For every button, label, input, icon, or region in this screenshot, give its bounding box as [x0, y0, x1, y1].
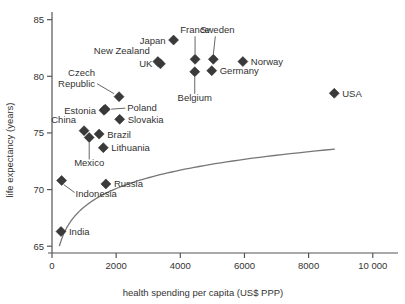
point-label: Czech [68, 67, 95, 78]
leader-line [97, 84, 114, 94]
x-tick-label: 10 000 [358, 260, 387, 271]
point-label: Brazil [107, 129, 131, 140]
point-label: Belgium [178, 92, 212, 103]
point-label: Norway [251, 56, 283, 67]
data-marker [57, 176, 67, 186]
x-tick-label: 8000 [298, 260, 319, 271]
data-marker [208, 54, 218, 64]
point-label: New Zealand [94, 45, 150, 56]
y-axis-title: life expectancy (years) [4, 102, 15, 197]
chart-canvas: IndiaIndonesiaChinaMexicoBrazilRussiaLit… [0, 0, 405, 304]
data-marker [190, 67, 200, 77]
point-label: Japan [140, 35, 166, 46]
data-marker [207, 66, 217, 76]
x-tick-label: 4000 [170, 260, 191, 271]
leader-line [213, 36, 215, 54]
x-axis-title: health spending per capita (US$ PPP) [123, 287, 284, 298]
point-label: Poland [127, 102, 157, 113]
point-label: Indonesia [76, 188, 118, 199]
y-tick-label: 70 [33, 184, 44, 195]
y-tick-label: 80 [33, 71, 44, 82]
data-marker [114, 92, 124, 102]
x-tick-label: 2000 [106, 260, 127, 271]
data-marker [94, 129, 104, 139]
point-label: Slovakia [128, 114, 165, 125]
scatter-chart: IndiaIndonesiaChinaMexicoBrazilRussiaLit… [0, 0, 405, 304]
point-label: USA [342, 88, 362, 99]
data-marker [115, 114, 125, 124]
x-tick-label: 6000 [234, 260, 255, 271]
point-label: India [69, 226, 90, 237]
point-label: Estonia [64, 105, 96, 116]
leader-line [64, 185, 75, 193]
point-label: Lithuania [111, 142, 150, 153]
point-label: Sweden [200, 24, 234, 35]
data-marker [169, 35, 179, 45]
data-marker [98, 143, 108, 153]
leader-line [111, 108, 125, 109]
point-label: Republic [58, 78, 95, 89]
data-marker [190, 54, 200, 64]
data-marker [56, 226, 66, 236]
point-label: Mexico [74, 157, 104, 168]
y-tick-label: 85 [33, 14, 44, 25]
point-label: Russia [114, 178, 144, 189]
x-tick-label: 0 [49, 260, 54, 271]
data-marker [329, 88, 339, 98]
point-label: UK [139, 58, 153, 69]
data-markers [56, 35, 339, 236]
y-tick-label: 75 [33, 127, 44, 138]
y-tick-label: 65 [33, 241, 44, 252]
